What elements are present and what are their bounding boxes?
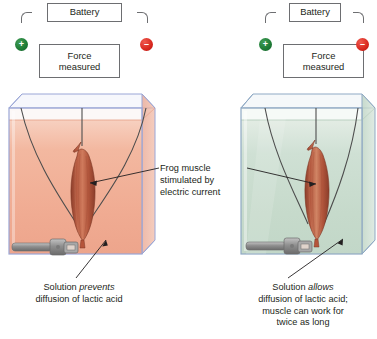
force-box-right[interactable]: Force measured (283, 44, 364, 78)
negative-sign-icon-right: – (360, 40, 365, 49)
caption-right: Solution allows diffusion of lactic acid… (228, 282, 377, 329)
battery-box-right[interactable]: Battery (289, 3, 341, 22)
positive-sign-icon-right: + (263, 40, 268, 49)
left-wire-vert-neg (0, 20, 1, 38)
center-label-line2: stimulated by (160, 175, 214, 185)
caption-right-line4: twice as long (276, 317, 329, 327)
negative-terminal-left[interactable]: – (140, 38, 153, 51)
caption-right-line1-pre: Solution (272, 282, 308, 292)
negative-terminal-right[interactable]: – (356, 38, 369, 51)
right-wire-vert-neg (0, 58, 1, 76)
caption-right-line3: muscle can work for (262, 306, 344, 316)
caption-left-emphasis: prevents (79, 282, 114, 292)
battery-label-right: Battery (300, 7, 330, 18)
positive-terminal-right[interactable]: + (259, 38, 272, 51)
left-wire-top-right (0, 1, 16, 2)
negative-sign-icon-left: – (144, 40, 149, 49)
force-box-left[interactable]: Force measured (39, 44, 120, 78)
caption-right-line2: diffusion of lactic acid; (258, 294, 348, 304)
positive-sign-icon-left: + (19, 40, 24, 49)
right-wire-top-right (0, 39, 14, 40)
battery-box-left[interactable]: Battery (47, 3, 122, 22)
left-wire-corner-topright (137, 12, 148, 23)
tank-right (240, 88, 376, 268)
left-wire-vert-pos (0, 2, 1, 20)
caption-right-emphasis: allows (308, 282, 334, 292)
right-wire-corner-topleft (265, 12, 276, 23)
positive-terminal-left[interactable]: + (15, 38, 28, 51)
center-label-line3: electric current (160, 187, 220, 197)
battery-label-left: Battery (70, 7, 100, 18)
force-label-left-line1: Force (68, 50, 92, 61)
caption-left-line2: diffusion of lactic acid (35, 294, 122, 304)
force-label-right-line2: measured (303, 61, 345, 72)
diagram-canvas: Battery + – Force measured (0, 0, 377, 339)
right-wire-vert-pos (0, 40, 1, 58)
center-label-frog-muscle: Frog muscle stimulated by electric curre… (160, 163, 246, 198)
left-wire-corner-topleft (21, 12, 32, 23)
caption-left: Solution prevents diffusion of lactic ac… (4, 282, 154, 306)
center-label-line1: Frog muscle (160, 163, 211, 173)
force-label-right-line1: Force (312, 50, 336, 61)
right-wire-corner-topright (353, 12, 364, 23)
caption-left-line1-pre: Solution (43, 282, 79, 292)
force-label-left-line2: measured (59, 61, 101, 72)
tank-left (8, 88, 156, 268)
